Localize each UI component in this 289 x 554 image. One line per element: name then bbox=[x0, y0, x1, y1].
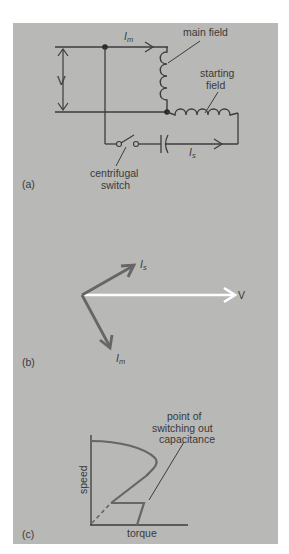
v-phasor-label: V bbox=[238, 289, 245, 301]
voltage-label: V bbox=[57, 73, 66, 88]
panel-b-tag: (b) bbox=[22, 356, 35, 368]
y-axis-label: speed bbox=[77, 465, 89, 494]
main-field-leader bbox=[168, 41, 200, 63]
im-phasor-label: Im bbox=[116, 352, 125, 366]
starting-field-label-line2: field bbox=[206, 79, 225, 91]
is-phasor-arrow bbox=[82, 265, 134, 295]
start-curve bbox=[111, 503, 144, 525]
run-curve-dashed bbox=[92, 505, 109, 523]
x-axis-label: torque bbox=[127, 527, 157, 539]
centrifugal-switch-icon bbox=[117, 135, 139, 147]
main-current-label: Im bbox=[124, 30, 133, 44]
v-phasor-arrow bbox=[82, 288, 235, 302]
run-curve bbox=[91, 441, 157, 503]
im-phasor-arrow bbox=[82, 295, 112, 348]
circuit-diagram: V Im main field starting field Is centri… bbox=[22, 26, 238, 191]
torque-speed-plot: point of switching out capacitance speed… bbox=[22, 410, 215, 540]
switch-label-line1: centrifugal bbox=[90, 167, 138, 179]
annotation-line3: capacitance bbox=[159, 433, 215, 445]
is-phasor-label: Is bbox=[140, 258, 147, 272]
switch-label-line2: switch bbox=[101, 179, 130, 191]
panel-a-tag: (a) bbox=[22, 178, 35, 190]
figure-canvas: V Im main field starting field Is centri… bbox=[0, 0, 289, 554]
starting-field-label-line1: starting bbox=[200, 67, 235, 79]
switch-leader bbox=[116, 147, 126, 166]
start-current-label: Is bbox=[189, 146, 196, 160]
starting-field-coil bbox=[167, 109, 238, 115]
main-field-label: main field bbox=[183, 26, 228, 38]
phasor-diagram: V Is Im (b) bbox=[22, 258, 245, 368]
annotation-leader bbox=[149, 442, 184, 500]
annotation-line1: point of bbox=[167, 410, 202, 422]
main-field-coil bbox=[160, 47, 167, 112]
panel-c-tag: (c) bbox=[22, 528, 34, 540]
